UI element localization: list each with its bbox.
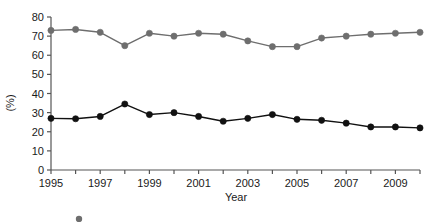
data-point-marker <box>146 111 152 117</box>
series-upper-series <box>48 26 423 49</box>
data-point-marker <box>319 35 325 41</box>
series-lower-series <box>48 101 423 131</box>
data-point-marker <box>146 30 152 36</box>
y-tick-label: 80 <box>32 11 44 23</box>
data-point-marker <box>73 116 79 122</box>
y-axis-tick-labels: 01020304050607080 <box>32 11 44 176</box>
chart-legend <box>76 216 82 222</box>
x-axis-title: Year <box>225 191 248 203</box>
data-point-marker <box>245 38 251 44</box>
y-axis-title: (%) <box>4 94 16 111</box>
y-tick-label: 40 <box>32 88 44 100</box>
data-point-marker <box>196 113 202 119</box>
y-tick-label: 30 <box>32 107 44 119</box>
line-chart: 01020304050607080 1995199719992001200320… <box>0 0 442 222</box>
data-point-marker <box>392 124 398 130</box>
x-tick-label: 2003 <box>236 177 260 189</box>
x-tick-label: 2009 <box>383 177 407 189</box>
data-point-marker <box>417 29 423 35</box>
data-point-marker <box>171 33 177 39</box>
series-line <box>51 29 420 46</box>
x-tick-label: 2001 <box>186 177 210 189</box>
data-point-marker <box>269 111 275 117</box>
data-point-marker <box>417 125 423 131</box>
y-tick-label: 50 <box>32 68 44 80</box>
y-tick-label: 10 <box>32 145 44 157</box>
data-point-marker <box>269 44 275 50</box>
y-tick-label: 60 <box>32 49 44 61</box>
x-tick-label: 1999 <box>137 177 161 189</box>
x-tick-label: 2005 <box>285 177 309 189</box>
x-tick-label: 2007 <box>334 177 358 189</box>
data-point-marker <box>319 117 325 123</box>
data-point-marker <box>122 101 128 107</box>
data-point-marker <box>196 30 202 36</box>
data-point-marker <box>73 26 79 32</box>
data-point-marker <box>368 124 374 130</box>
data-point-marker <box>220 118 226 124</box>
data-point-marker <box>122 43 128 49</box>
data-point-marker <box>368 31 374 37</box>
y-tick-label: 70 <box>32 30 44 42</box>
data-point-marker <box>171 110 177 116</box>
x-tick-label: 1995 <box>39 177 63 189</box>
y-tick-label: 0 <box>38 164 44 176</box>
chart-container: 01020304050607080 1995199719992001200320… <box>0 0 442 222</box>
data-point-marker <box>294 116 300 122</box>
legend-marker-icon <box>76 216 82 222</box>
data-point-marker <box>97 29 103 35</box>
x-axis-ticks <box>51 170 420 174</box>
data-point-marker <box>343 120 349 126</box>
data-point-marker <box>245 115 251 121</box>
x-tick-label: 1997 <box>88 177 112 189</box>
data-point-marker <box>294 44 300 50</box>
data-point-marker <box>392 30 398 36</box>
y-tick-label: 20 <box>32 126 44 138</box>
data-point-marker <box>343 33 349 39</box>
data-point-marker <box>97 113 103 119</box>
data-point-marker <box>220 31 226 37</box>
x-axis-tick-labels: 19951997199920012003200520072009 <box>39 177 408 189</box>
data-point-marker <box>48 115 54 121</box>
data-point-marker <box>48 27 54 33</box>
series-line <box>51 104 420 128</box>
data-series-layer <box>48 26 423 131</box>
